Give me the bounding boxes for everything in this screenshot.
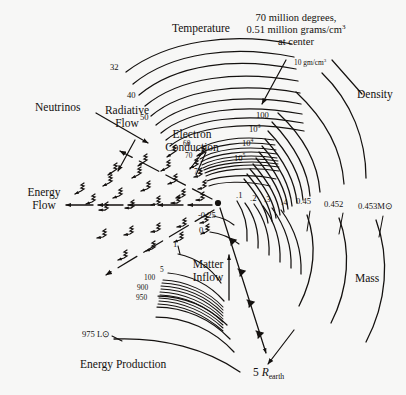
density-outer-text: 10 gm/cm <box>294 58 324 67</box>
matter-inflow-line1: Matter <box>180 258 236 271</box>
center-note-leader <box>262 60 286 104</box>
temp-tick-40: 40 <box>127 91 136 101</box>
mass-tick-4: .4 <box>281 198 287 208</box>
energy-tick-900: 900 <box>137 284 148 292</box>
radiative-flow-line2: Flow <box>96 117 158 130</box>
mass-contours <box>237 201 301 274</box>
density-tick-1e4-exp: 4 <box>251 137 254 143</box>
mass-tick-3: .3 <box>264 195 270 205</box>
temp-tick-50: 50 <box>140 113 149 123</box>
electron-conduction-line1: Electron <box>156 128 228 141</box>
energy-1-tick <box>178 246 180 254</box>
density-tick-1e3: 103 <box>249 125 261 135</box>
radius-scale-symbol: R <box>262 366 269 378</box>
radiative-flow-line1: Radiative <box>96 104 158 117</box>
temperature-label: Temperature <box>172 22 230 35</box>
mass-tick-045: 0.45 <box>296 197 311 207</box>
temp-tick-72: 72 <box>194 168 201 176</box>
temp-tick-60: 60 <box>183 140 190 148</box>
density-tick-1e3-base: 10 <box>249 124 258 134</box>
mass-label: Mass <box>355 272 379 285</box>
energy-tick-975: 975 L⊙ <box>82 330 110 340</box>
neutrinos-label: Neutrinos <box>35 101 80 114</box>
density-tick-1e5-base: 10 <box>234 153 243 163</box>
mass-0453-tick <box>379 216 383 237</box>
radius-scale-number: 5 <box>253 366 262 378</box>
density-outer-sup: 3 <box>324 58 327 63</box>
energy-tick-100: 100 <box>144 274 155 282</box>
inner-tick-0: 0 <box>199 226 203 236</box>
density-label: Density <box>357 88 393 101</box>
stellar-structure-figure: Temperature Density Mass Energy Producti… <box>0 0 406 395</box>
center-note-line2: 0.51 million grams/cm3 <box>228 24 364 36</box>
density-tick-1e3-exp: 3 <box>258 123 261 129</box>
energy-tick-950: 950 <box>136 294 147 302</box>
temp-tick-70: 70 <box>185 152 192 160</box>
electron-conduction-label: Electron Conduction <box>156 128 228 154</box>
temp-tick-32: 32 <box>110 63 119 73</box>
center-note-line2-sup: 3 <box>342 22 346 30</box>
center-note-line3: at center <box>228 36 364 48</box>
mass-tick-0453: 0.453M⊙ <box>358 202 393 212</box>
radius-scale-subscript: earth <box>269 372 285 381</box>
density-tick-1e5: 105 <box>234 154 246 164</box>
radius-scale-label: 5 Rearth <box>253 366 284 379</box>
stellar-center-point <box>215 200 221 206</box>
density-tick-100: 100 <box>256 111 269 121</box>
center-conditions-note: 70 million degrees, 0.51 million grams/c… <box>228 12 364 47</box>
center-note-line2-text: 0.51 million grams/cm <box>247 24 342 35</box>
energy-flow-line2: Flow <box>16 199 72 212</box>
matter-inflow-label: Matter Inflow <box>180 258 236 284</box>
matter-inflow-line2: Inflow <box>180 271 236 284</box>
mass-tick-0452: 0.452 <box>324 200 343 210</box>
mass-tick-2: .2 <box>250 194 256 204</box>
radius-label-leader <box>268 330 294 364</box>
energy-production-label: Energy Production <box>80 358 166 371</box>
mass-tick-1: .1 <box>236 191 242 201</box>
density-tick-1e5-exp: 5 <box>243 152 246 158</box>
density-tick-1e4: 104 <box>242 139 254 149</box>
energy-tick-1: 1 <box>173 240 177 250</box>
energy-tick-5: 5 <box>160 266 164 274</box>
energy-flow-line1: Energy <box>16 186 72 199</box>
energy-flow-label: Energy Flow <box>16 186 72 212</box>
density-tick-1e4-base: 10 <box>242 138 251 148</box>
density-outer-label: 10 gm/cm3 <box>294 59 326 67</box>
radiative-flow-label: Radiative Flow <box>96 104 158 130</box>
radiative-flow-leader <box>118 140 135 171</box>
inner-tick-neg025: -0.25 <box>198 211 216 221</box>
